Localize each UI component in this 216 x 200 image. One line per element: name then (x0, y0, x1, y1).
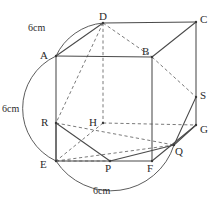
vertex-dot-B (151, 56, 153, 58)
edge-B-S-hidden (152, 57, 196, 97)
edge-Q-S (174, 97, 196, 145)
vertex-label-Q: Q (175, 146, 183, 157)
vertex-label-P: P (105, 163, 111, 174)
edge-B-C (152, 22, 196, 57)
arc-bottom (56, 145, 174, 191)
vertex-dot-G (195, 124, 197, 126)
vertex-label-R: R (41, 117, 48, 128)
edge-R-Q-hidden (56, 123, 174, 145)
arc-left (23, 56, 56, 161)
vertex-dot-S (195, 96, 197, 98)
vertex-dot-E (55, 160, 57, 162)
dimension-label-left: 6cm (2, 104, 19, 114)
vertex-label-S: S (200, 90, 206, 101)
edge-R-P (56, 123, 110, 161)
vertex-dot-H (102, 122, 104, 124)
edge-H-E (56, 123, 103, 161)
edge-H-G (103, 123, 196, 125)
hidden-edges-group (56, 23, 196, 161)
vertex-label-G: G (200, 124, 208, 135)
vertex-label-A: A (40, 50, 48, 61)
geometry-figure: A B C D E F G H P Q R S 6cm 6cm 6cm (0, 0, 216, 200)
edge-E-Q-hidden (56, 145, 174, 161)
dimension-label-bottom: 6cm (93, 186, 110, 196)
vertex-label-H: H (89, 117, 97, 128)
vertex-label-F: F (147, 163, 153, 174)
vertex-dot-R (55, 122, 57, 124)
vertex-dot-D (102, 22, 104, 24)
edge-G-Q (174, 125, 196, 145)
vertex-dot-A (55, 55, 57, 57)
vertex-label-D: D (99, 11, 107, 22)
visible-edges-group (56, 22, 196, 161)
vertex-dot-C (195, 21, 197, 23)
vertex-label-C: C (200, 14, 207, 25)
edge-A-B (56, 56, 152, 57)
dimension-label-top-left: 6cm (28, 23, 45, 33)
edge-A-D (56, 23, 103, 56)
edge-D-R-hidden (56, 23, 103, 123)
edge-P-Q (110, 145, 174, 161)
vertex-label-E: E (40, 159, 47, 170)
vertex-label-B: B (142, 46, 149, 57)
edge-D-C (103, 22, 196, 23)
